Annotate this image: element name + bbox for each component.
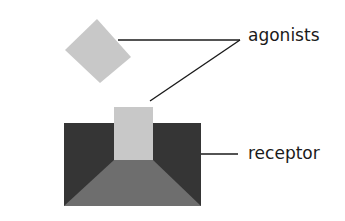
free-agonist-shape	[65, 19, 131, 83]
bound-agonist-shape	[114, 107, 153, 160]
receptor-label: receptor	[248, 143, 320, 163]
agonist-receptor-diagram: agonists receptor	[0, 0, 345, 221]
agonists-label: agonists	[248, 25, 320, 45]
agonist-leader-line-bound	[150, 40, 240, 101]
